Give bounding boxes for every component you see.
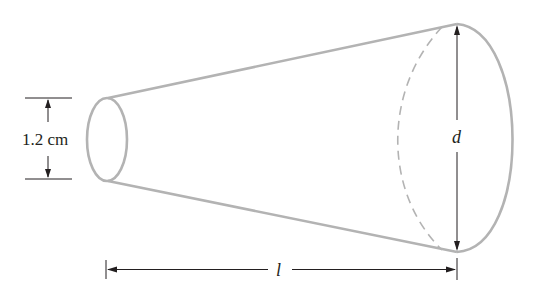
l-dim-left-arrow-icon xyxy=(107,267,117,273)
cone-bottom-edge xyxy=(108,181,457,252)
small-dim-up-arrow-icon xyxy=(45,99,51,108)
large-end-front-arc xyxy=(457,24,513,252)
d-dim-up-arrow-icon xyxy=(454,25,460,35)
large-end-hidden-arc xyxy=(398,27,442,250)
cone-top-edge xyxy=(108,24,457,98)
small-dim-down-arrow-icon xyxy=(45,169,51,178)
large-diameter-label: d xyxy=(452,128,461,146)
d-dim-down-arrow-icon xyxy=(454,241,460,251)
length-label: l xyxy=(276,261,281,279)
small-end-ellipse xyxy=(87,98,127,181)
small-diameter-label: 1.2 cm xyxy=(22,131,68,148)
cone-diagram xyxy=(0,0,542,296)
l-dim-right-arrow-icon xyxy=(446,267,456,273)
